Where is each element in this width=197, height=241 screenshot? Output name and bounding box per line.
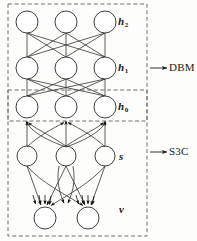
layer-nodes-s	[17, 146, 115, 166]
edges-h2-h1	[27, 33, 105, 57]
model-label-dbm: DBM	[169, 62, 195, 73]
node-v-1	[34, 207, 56, 229]
layer-label-h0-sub: 0	[125, 106, 129, 114]
layer-label-h2: h2	[118, 16, 128, 27]
layer-label-s-base: s	[119, 150, 123, 162]
layer-label-h1-base: h	[118, 61, 124, 73]
layer-nodes-h1	[16, 57, 116, 79]
layer-label-s: s	[119, 151, 123, 162]
v-incoming-arrowheads	[33, 195, 94, 205]
layer-label-v-base: v	[119, 203, 124, 215]
node-h2-3	[94, 11, 116, 33]
node-h1-1	[16, 57, 38, 79]
node-s-3	[95, 146, 115, 166]
layer-label-h1-sub: 1	[125, 67, 129, 75]
layer-label-v: v	[119, 204, 124, 215]
node-h2-2	[55, 11, 77, 33]
layer-label-h0: h0	[118, 101, 128, 112]
layer-nodes-h0	[16, 96, 116, 118]
diagram-canvas: h2 h1 h0 s v DBM S3C	[0, 0, 197, 241]
node-s-2	[56, 146, 76, 166]
layer-label-h2-base: h	[118, 15, 124, 27]
node-h1-2	[55, 57, 77, 79]
node-h2-1	[16, 11, 38, 33]
callout-arrows	[150, 68, 167, 152]
layer-nodes-v	[34, 207, 99, 229]
layer-label-h0-base: h	[118, 100, 124, 112]
node-h0-1	[16, 96, 38, 118]
edges-s-to-h0	[26, 121, 106, 147]
node-h0-2	[55, 96, 77, 118]
node-s-1	[17, 146, 37, 166]
model-label-s3c: S3C	[169, 146, 189, 157]
layer-label-h1: h1	[118, 62, 128, 73]
node-h1-3	[94, 57, 116, 79]
layer-nodes-h2	[16, 11, 116, 33]
node-h0-3	[94, 96, 116, 118]
node-v-2	[77, 207, 99, 229]
network-diagram-svg	[0, 0, 197, 241]
edges-h1-h0	[27, 79, 105, 96]
layer-label-h2-sub: 2	[125, 21, 129, 29]
